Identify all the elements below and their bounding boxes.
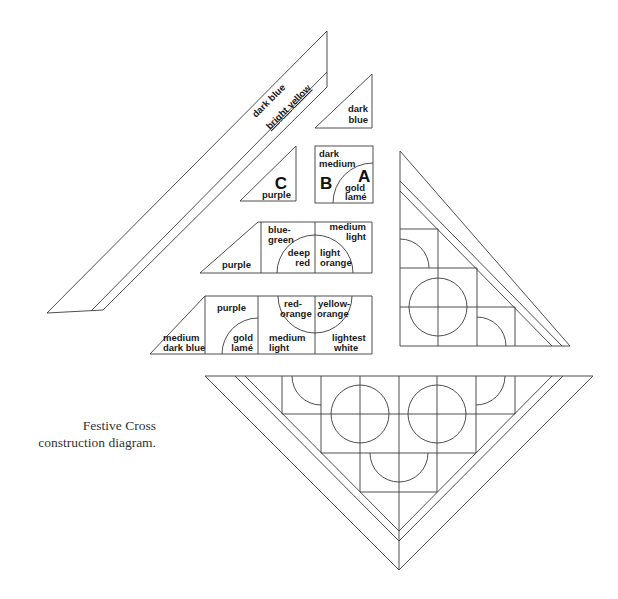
label: orange <box>320 257 352 268</box>
square-ab: dark medium B A gold lamé <box>315 146 373 203</box>
festive-cross-diagram: dark blue bright yellow dark blue C purp… <box>0 0 618 599</box>
dark-blue-triangle: dark blue <box>315 74 372 128</box>
caption-line-1: Festive Cross <box>38 417 156 434</box>
label: white <box>333 342 358 353</box>
letter-b: B <box>320 174 332 193</box>
long-strip: dark blue bright yellow <box>47 31 327 313</box>
bottom-row-unit: medium dark blue purple gold lamé red- o… <box>150 296 372 354</box>
label: green <box>268 234 294 245</box>
label: orange <box>280 308 312 319</box>
figure-caption: Festive Cross construction diagram. <box>38 417 156 451</box>
label: purple <box>217 302 246 313</box>
label: light <box>346 231 367 242</box>
label: dark <box>348 103 369 114</box>
caption-line-2: construction diagram. <box>38 434 156 451</box>
label: lamé <box>231 342 253 353</box>
label: red <box>295 257 310 268</box>
middle-row-unit: purple blue- green deep red medium light… <box>200 221 372 273</box>
label: medium <box>319 158 355 169</box>
label: purple <box>262 189 291 200</box>
label: lamé <box>345 191 367 202</box>
bottom-corner-triangle <box>205 376 593 570</box>
label: dark blue <box>163 342 205 353</box>
triangle-c: C purple <box>240 146 296 201</box>
label: orange <box>317 308 349 319</box>
label: light <box>269 342 290 353</box>
label: blue <box>348 114 368 125</box>
right-corner-triangle <box>400 151 570 346</box>
label: purple <box>222 259 251 270</box>
